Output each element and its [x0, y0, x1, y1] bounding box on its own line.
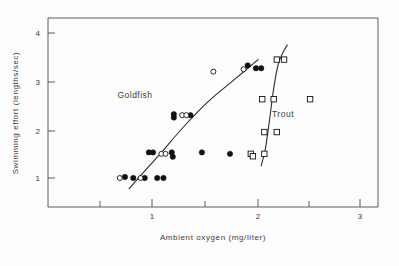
data-point-0-10 — [227, 151, 232, 156]
series-group-1 — [117, 67, 246, 181]
data-point-2-6 — [271, 97, 276, 102]
data-point-0-0 — [122, 174, 127, 179]
x-axis-ticks — [100, 199, 360, 207]
series-group-2 — [248, 57, 313, 159]
y-tick-label-1: 1 — [36, 174, 41, 183]
y-tick-label-2: 2 — [36, 127, 41, 136]
data-point-2-9 — [281, 57, 286, 62]
data-point-0-9 — [199, 150, 204, 155]
trout-fit-curve — [261, 45, 287, 166]
y-tick-label-3: 3 — [36, 78, 41, 87]
data-point-0-6 — [150, 150, 155, 155]
data-point-2-2 — [262, 151, 267, 156]
figure-container: 4 3 2 1 1 2 3 Ambient oxygen (mg/liter) … — [0, 0, 399, 266]
data-point-1-0 — [117, 176, 122, 181]
annotation-trout: Trout — [272, 109, 294, 119]
plot-frame — [48, 18, 378, 207]
data-point-1-7 — [241, 67, 246, 72]
data-point-0-3 — [155, 175, 160, 180]
annotation-goldfish: Goldfish — [117, 90, 152, 100]
y-axis-title: Swimming effort (lengths/sec) — [11, 52, 20, 175]
y-axis-ticks — [48, 33, 55, 178]
data-point-2-8 — [274, 57, 279, 62]
data-point-1-3 — [163, 151, 168, 156]
data-point-0-16 — [259, 66, 264, 71]
data-point-0-12 — [171, 115, 176, 120]
scatter-plot: 4 3 2 1 1 2 3 Ambient oxygen (mg/liter) … — [0, 0, 399, 266]
series-group-0 — [122, 63, 264, 181]
data-point-1-1 — [138, 176, 143, 181]
data-point-2-4 — [274, 129, 279, 134]
data-point-2-7 — [307, 97, 312, 102]
x-axis-title: Ambient oxygen (mg/liter) — [160, 233, 266, 242]
data-point-1-5 — [184, 113, 189, 118]
data-point-2-5 — [260, 97, 265, 102]
data-point-0-14 — [245, 63, 250, 68]
x-tick-label-1: 1 — [150, 212, 155, 221]
data-point-0-1 — [131, 175, 136, 180]
x-tick-label-2: 2 — [256, 212, 261, 221]
x-tick-label-3: 3 — [358, 212, 363, 221]
data-point-2-1 — [250, 154, 255, 159]
data-point-0-15 — [253, 66, 258, 71]
data-point-0-4 — [161, 175, 166, 180]
y-tick-label-4: 4 — [36, 29, 41, 38]
goldfish-fit-curve — [129, 60, 258, 189]
data-point-2-3 — [262, 129, 267, 134]
data-point-0-8 — [170, 154, 175, 159]
data-point-1-6 — [211, 69, 216, 74]
